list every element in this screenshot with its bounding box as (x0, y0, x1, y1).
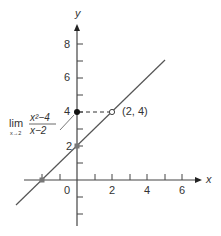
x-tick-4: 4 (144, 184, 150, 196)
y-axis-label: y (74, 7, 82, 19)
y-intercept-point (75, 144, 80, 149)
y-tick-4: 4 (64, 105, 70, 117)
hole-point-label: (2, 4) (122, 105, 148, 117)
y-tick-8: 8 (64, 38, 70, 50)
graph: y x 8 6 4 2 0 2 4 6 (2, 4) lim x→2 x²−4 … (0, 0, 221, 236)
x-tick-0: 0 (64, 184, 70, 196)
x-intercept-point (40, 178, 45, 183)
fraction-denominator: x−2 (29, 125, 47, 136)
x-tick-2: 2 (109, 184, 115, 196)
hole-point (109, 109, 114, 114)
lim-subscript: x→2 (10, 130, 21, 136)
y-ticks (77, 44, 83, 214)
y-axis-arrow-icon (74, 24, 80, 31)
annotation-pointer (60, 115, 74, 130)
x-tick-6: 6 (179, 184, 185, 196)
limit-point (74, 109, 80, 115)
y-tick-6: 6 (64, 71, 70, 83)
x-ticks (42, 174, 182, 180)
fraction-numerator: x²−4 (29, 112, 50, 123)
lim-text: lim (9, 117, 23, 129)
x-axis-label: x (205, 173, 212, 185)
y-tick-2: 2 (66, 140, 72, 152)
x-axis-arrow-icon (195, 177, 202, 183)
